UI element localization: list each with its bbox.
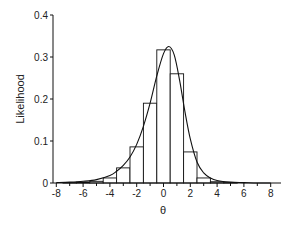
x-tick-label: 0 [161, 188, 167, 199]
y-axis-title: Likelihood [14, 74, 26, 124]
histogram-bars [63, 50, 237, 183]
y-tick-label: 0.1 [34, 136, 48, 147]
x-tick-label: 8 [268, 188, 274, 199]
histogram-bar [103, 178, 116, 183]
x-tick-label: -8 [52, 188, 61, 199]
histogram-bar [197, 178, 210, 183]
y-tick-label: 0 [42, 178, 48, 189]
histogram-bar [130, 147, 143, 183]
x-tick-label: -2 [132, 188, 141, 199]
x-axis-title: θ [160, 204, 166, 216]
x-tick-label: -6 [79, 188, 88, 199]
y-axis-ticks: 00.10.20.30.4 [34, 10, 53, 189]
histogram-bar [143, 103, 156, 183]
x-tick-label: 4 [214, 188, 220, 199]
x-axis-ticks: -8-6-4-202468 [52, 183, 274, 199]
y-tick-label: 0.2 [34, 94, 48, 105]
x-tick-label: 6 [241, 188, 247, 199]
x-tick-label: -4 [105, 188, 114, 199]
y-tick-label: 0.4 [34, 10, 48, 21]
x-tick-label: 2 [188, 188, 194, 199]
y-tick-label: 0.3 [34, 52, 48, 63]
likelihood-histogram-chart: 00.10.20.30.4 -8-6-4-202468 Likelihood θ [0, 0, 290, 225]
